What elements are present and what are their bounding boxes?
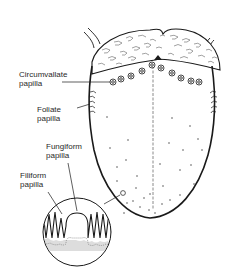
tongue-root — [92, 29, 220, 74]
tongue-body-outline — [89, 66, 214, 218]
label-foliate-papilla: Foliate papilla — [37, 105, 61, 123]
tongue-illustration — [0, 0, 245, 272]
label-circumvallate-line2: papilla — [19, 79, 67, 88]
label-circumvallate-line1: Circumvallate — [19, 70, 67, 79]
label-circumvallate-papilla: Circumvallate papilla — [19, 70, 67, 88]
magnified-inset — [40, 198, 116, 266]
label-fungiform-papilla: Fungiform papilla — [46, 142, 82, 160]
label-filiform-papilla: Filiform papilla — [20, 171, 46, 189]
fungiform-dots — [106, 116, 203, 214]
tongue-diagram: Circumvallate papilla Foliate papilla Fu… — [0, 0, 245, 272]
label-foliate-line1: Foliate — [37, 105, 61, 114]
label-fungiform-line2: papilla — [46, 151, 82, 160]
label-fungiform-line1: Fungiform — [46, 142, 82, 151]
magnified-region-marker — [121, 191, 126, 196]
label-filiform-line2: papilla — [20, 180, 46, 189]
label-foliate-line2: papilla — [37, 114, 61, 123]
label-filiform-line1: Filiform — [20, 171, 46, 180]
